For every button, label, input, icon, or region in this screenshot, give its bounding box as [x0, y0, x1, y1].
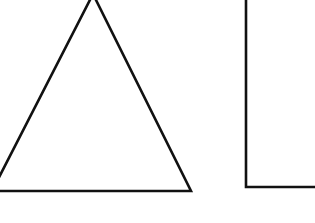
- drawing-canvas: [0, 0, 315, 223]
- canvas-background: [0, 0, 315, 223]
- shapes-svg: [0, 0, 315, 223]
